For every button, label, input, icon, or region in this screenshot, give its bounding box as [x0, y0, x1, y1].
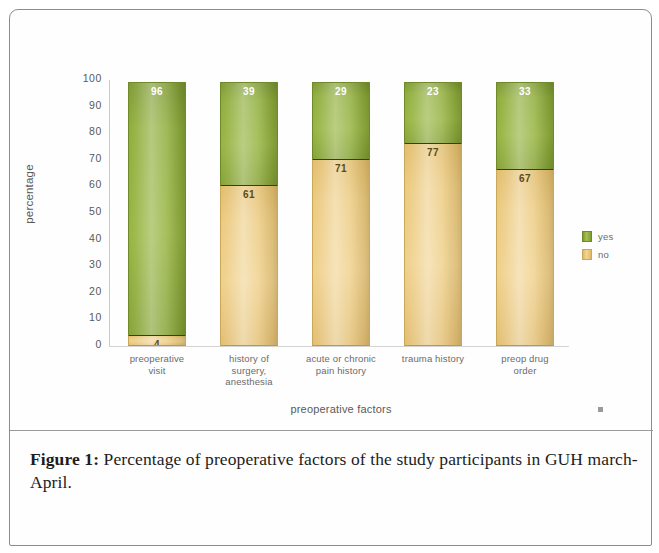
caption-divider: [10, 430, 653, 431]
scan-artifact-speck: [598, 407, 603, 412]
figure-caption-text: Percentage of preoperative factors of th…: [30, 449, 638, 492]
x-axis-title: preoperative factors: [110, 403, 572, 415]
bar-value-label-yes: 96: [129, 86, 185, 97]
x-category-label: trauma history: [385, 353, 481, 365]
plot-area: 4966139712977236733: [110, 82, 572, 346]
x-category-label-line: visit: [109, 365, 205, 377]
y-tick-100: 100: [66, 72, 102, 84]
x-category-label-line: surgery,: [201, 365, 297, 377]
y-tick-90: 90: [66, 99, 102, 111]
figure-caption: Figure 1: Percentage of preoperative fac…: [30, 448, 638, 494]
x-category-label-line: preoperative: [109, 353, 205, 365]
y-tick-60: 60: [66, 178, 102, 190]
x-category-label: history ofsurgery,anesthesia: [201, 353, 297, 388]
bar-column[interactable]: 6733: [496, 82, 554, 346]
y-axis-title: percentage: [23, 149, 35, 239]
x-category-label: acute or chronicpain history: [293, 353, 389, 376]
bar-column[interactable]: 7723: [404, 82, 462, 346]
bar-segment-no[interactable]: 61: [220, 185, 278, 346]
bar-segment-yes[interactable]: 29: [312, 82, 370, 159]
x-category-label: preop drugorder: [477, 353, 573, 376]
x-category-label-line: anesthesia: [201, 376, 297, 388]
x-axis-baseline: [109, 346, 569, 347]
y-tick-50: 50: [66, 205, 102, 217]
x-axis-category-labels: preoperativevisithistory ofsurgery,anest…: [110, 353, 572, 399]
legend-item-no[interactable]: no: [582, 247, 652, 262]
bar-segment-yes[interactable]: 39: [220, 82, 278, 185]
y-tick-0: 0: [66, 338, 102, 350]
bar-value-label-yes: 39: [221, 86, 277, 97]
y-tick-70: 70: [66, 152, 102, 164]
bar-value-label-yes: 33: [497, 86, 553, 97]
bar-segment-no[interactable]: 71: [312, 159, 370, 346]
legend-item-yes[interactable]: yes: [582, 229, 652, 244]
bar-segment-yes[interactable]: 23: [404, 82, 462, 143]
bar-segment-no[interactable]: 77: [404, 143, 462, 346]
bar-value-label-no: 4: [129, 339, 185, 346]
green-swatch-icon: [582, 231, 592, 242]
tan-swatch-icon: [582, 249, 592, 260]
x-category-label-line: acute or chronic: [293, 353, 389, 365]
scanned-page-frame: percentage 1009080706050403020100 496613…: [9, 9, 652, 546]
x-category-label-line: order: [477, 365, 573, 377]
bar-segment-yes[interactable]: 33: [496, 82, 554, 169]
bar-segment-no[interactable]: 4: [128, 335, 186, 346]
bar-value-label-no: 77: [405, 147, 461, 158]
bar-value-label-no: 67: [497, 173, 553, 184]
bar-segment-no[interactable]: 67: [496, 169, 554, 346]
bar-column[interactable]: 6139: [220, 82, 278, 346]
bar-value-label-no: 71: [313, 163, 369, 174]
x-category-label-line: preop drug: [477, 353, 573, 365]
y-tick-40: 40: [66, 232, 102, 244]
bar-value-label-no: 61: [221, 189, 277, 200]
bar-segment-yes[interactable]: 96: [128, 82, 186, 335]
bar-value-label-yes: 29: [313, 86, 369, 97]
bar-column[interactable]: 496: [128, 82, 186, 346]
legend-label: no: [598, 249, 609, 260]
x-category-label-line: history of: [201, 353, 297, 365]
y-tick-20: 20: [66, 285, 102, 297]
figure-card: percentage 1009080706050403020100 496613…: [10, 10, 653, 547]
bar-value-label-yes: 23: [405, 86, 461, 97]
y-axis-tick-labels: 1009080706050403020100: [66, 74, 102, 348]
bar-column[interactable]: 7129: [312, 82, 370, 346]
y-tick-10: 10: [66, 311, 102, 323]
x-category-label: preoperativevisit: [109, 353, 205, 376]
x-category-label-line: trauma history: [385, 353, 481, 365]
chart-legend: yesno: [582, 229, 652, 265]
x-category-label-line: pain history: [293, 365, 389, 377]
y-tick-30: 30: [66, 258, 102, 270]
stacked-bar-chart: percentage 1009080706050403020100 496613…: [10, 10, 653, 430]
figure-caption-label: Figure 1:: [30, 449, 99, 469]
y-tick-80: 80: [66, 125, 102, 137]
legend-label: yes: [598, 231, 613, 242]
